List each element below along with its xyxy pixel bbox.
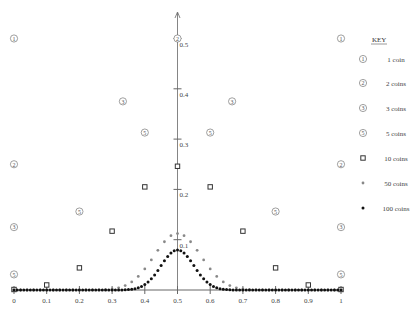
circled-3-marker: 3: [337, 224, 344, 231]
circle-number: 3: [121, 99, 124, 105]
dot-100-marker: [264, 289, 267, 292]
dot-100-marker: [330, 289, 333, 292]
circled-3-marker: 3: [10, 224, 17, 231]
circled-5-marker: 5: [141, 129, 148, 136]
dot-50-marker: [156, 249, 159, 252]
circle-number: 5: [78, 209, 81, 215]
dot-100-marker: [287, 289, 290, 292]
dot-100-marker: [88, 289, 91, 292]
y-tick-label: 0.3: [180, 141, 189, 149]
black-dot-icon: [362, 207, 365, 210]
dot-100-marker: [22, 289, 25, 292]
dot-100-marker: [189, 259, 192, 262]
dot-50-marker: [124, 284, 127, 287]
legend-label: 5 coins: [386, 130, 406, 138]
circle-number: 3: [340, 224, 343, 230]
dot-100-marker: [183, 252, 186, 255]
dot-50-marker: [163, 240, 166, 243]
x-tick-label: 0.2: [75, 297, 84, 305]
circle-number: 2: [340, 162, 343, 168]
circle-number: 3: [231, 99, 234, 105]
dot-100-marker: [222, 288, 225, 291]
dot-100-marker: [304, 289, 307, 292]
dot-100-marker: [35, 289, 38, 292]
dot-100-marker: [219, 287, 222, 290]
dot-100-marker: [45, 289, 48, 292]
square-marker: [241, 229, 245, 233]
dot-100-marker: [333, 289, 336, 292]
legend-item: 50 coins: [362, 180, 408, 188]
dot-100-marker: [251, 288, 254, 291]
dot-100-marker: [130, 288, 133, 291]
dot-100-marker: [114, 288, 117, 291]
circle-number: 1: [340, 36, 343, 42]
dot-100-marker: [166, 255, 169, 258]
dot-100-marker: [42, 289, 45, 292]
dot-100-marker: [104, 288, 107, 291]
dot-100-marker: [16, 289, 19, 292]
dot-50-marker: [183, 234, 186, 237]
dot-100-marker: [75, 289, 78, 292]
circle-number: 3: [13, 224, 16, 230]
dot-100-marker: [336, 289, 339, 292]
dot-100-marker: [55, 289, 58, 292]
dot-100-marker: [274, 289, 277, 292]
dot-100-marker: [268, 289, 271, 292]
legend-label: 3 coins: [386, 105, 406, 113]
dot-100-marker: [13, 289, 16, 292]
dot-100-marker: [202, 277, 205, 280]
dot-100-marker: [290, 289, 293, 292]
dot-100-marker: [52, 289, 55, 292]
legend-label: 2 coins: [386, 80, 406, 88]
dot-100-marker: [186, 255, 189, 258]
dot-100-marker: [261, 288, 264, 291]
square-marker: [273, 266, 277, 270]
dot-100-marker: [320, 289, 323, 292]
dot-100-marker: [163, 259, 166, 262]
circled-3-marker: 3: [359, 104, 366, 111]
dot-100-marker: [281, 289, 284, 292]
legend-label: 1 coin: [387, 56, 405, 64]
dot-50-marker: [130, 281, 133, 284]
dot-100-marker: [32, 289, 35, 292]
legend-item: 55 coins: [359, 129, 406, 137]
x-tick-label: 0.3: [108, 297, 117, 305]
dot-100-marker: [317, 289, 320, 292]
circled-1-marker: 1: [359, 55, 366, 62]
dot-100-marker: [156, 269, 159, 272]
square-marker: [143, 185, 147, 189]
circled-2-marker: 2: [337, 161, 344, 168]
circle-number: 1: [13, 36, 16, 42]
circle-number: 2: [13, 162, 16, 168]
legend-item: 33 coins: [359, 104, 406, 112]
dot-100-marker: [310, 289, 313, 292]
y-tick-label: 0.2: [180, 191, 189, 199]
circled-5-marker: 5: [76, 208, 83, 215]
dot-100-marker: [133, 287, 136, 290]
dot-100-marker: [297, 289, 300, 292]
circled-5-marker: 5: [10, 271, 17, 278]
dot-50-marker: [176, 232, 179, 235]
circle-number: 5: [362, 130, 365, 136]
legend-item: 22 coins: [359, 79, 406, 87]
dot-50-marker: [143, 268, 146, 271]
circled-5-marker: 5: [359, 129, 366, 136]
dot-100-marker: [232, 288, 235, 291]
dot-100-marker: [245, 288, 248, 291]
circled-3-marker: 3: [119, 98, 126, 105]
y-tick-label: 0.5: [180, 41, 189, 49]
dot-100-marker: [39, 289, 42, 292]
circle-number: 5: [143, 130, 146, 136]
dot-50-marker: [189, 240, 192, 243]
dot-100-marker: [176, 248, 179, 251]
dot-100-marker: [137, 286, 140, 289]
dot-100-marker: [313, 289, 316, 292]
dot-100-marker: [81, 289, 84, 292]
dot-100-marker: [140, 285, 143, 288]
dot-100-marker: [84, 289, 87, 292]
circled-2-marker: 2: [359, 79, 366, 86]
dot-50-marker: [209, 268, 212, 271]
dot-100-marker: [277, 289, 280, 292]
x-tick-label: 0.6: [206, 297, 215, 305]
dot-50-marker: [150, 259, 153, 262]
